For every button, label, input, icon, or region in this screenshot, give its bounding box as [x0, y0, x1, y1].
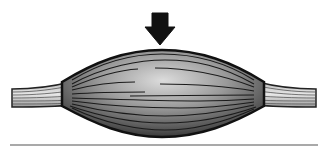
muscle-belly	[62, 50, 264, 137]
arrow-down-icon	[145, 13, 175, 45]
muscle-diagram	[0, 0, 326, 148]
